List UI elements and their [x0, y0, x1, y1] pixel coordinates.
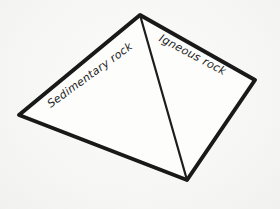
diagram-canvas: Sedimentary rock Igneous rock	[0, 0, 280, 209]
pyramid-diagram: Sedimentary rock Igneous rock	[0, 0, 280, 209]
